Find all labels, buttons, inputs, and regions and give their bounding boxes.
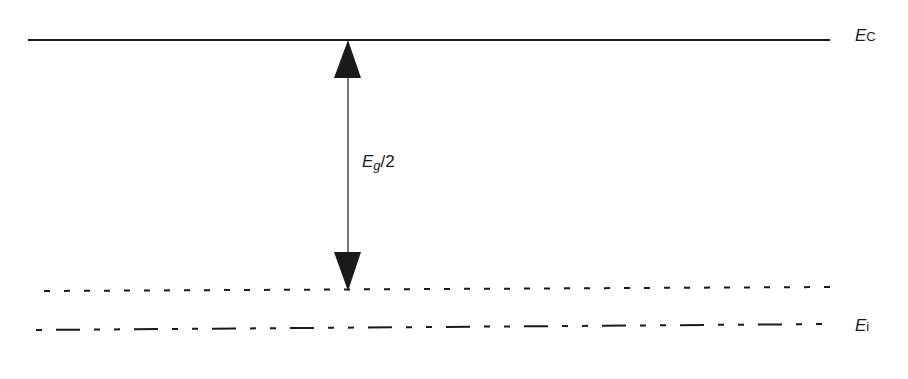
energy-band-diagram: EC Ei Eg/2 <box>0 0 908 379</box>
ei-label: Ei <box>855 316 869 335</box>
arrow-head-down-icon <box>334 252 361 291</box>
ec-label: EC <box>855 26 876 45</box>
eg-half-label: Eg/2 <box>362 152 395 173</box>
arrow-head-up-icon <box>334 40 361 78</box>
intrinsic-level-line <box>36 324 832 330</box>
dotted-level-line <box>44 287 830 291</box>
